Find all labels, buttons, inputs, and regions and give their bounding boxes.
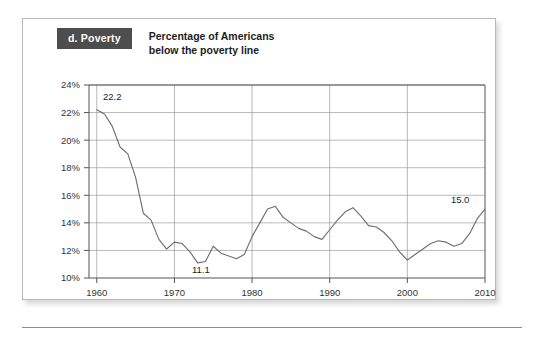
x-axis-tick-label: 2010 bbox=[474, 287, 495, 298]
x-axis-tick-labels: 196019701980199020002010 bbox=[86, 287, 495, 298]
y-axis-tick-labels: 10%12%14%16%18%20%22%24% bbox=[61, 79, 81, 283]
y-axis-tick-label: 10% bbox=[61, 272, 81, 283]
data-series-group bbox=[97, 110, 485, 263]
y-axis-tick-label: 16% bbox=[61, 190, 81, 201]
panel-badge: d. Poverty bbox=[57, 28, 132, 49]
bottom-divider-rule bbox=[22, 327, 522, 328]
y-axis-tick-label: 12% bbox=[61, 245, 81, 256]
chart-plot-area: 10%12%14%16%18%20%22%24% 196019701980199… bbox=[23, 73, 497, 301]
data-point-label: 11.1 bbox=[192, 264, 210, 275]
figure-card: d. Poverty Percentage of Americans below… bbox=[22, 18, 496, 300]
y-axis-tick-label: 18% bbox=[61, 162, 81, 173]
figure-header: d. Poverty Percentage of Americans below… bbox=[57, 28, 274, 58]
gridlines-group bbox=[89, 85, 485, 278]
x-axis-tick-label: 1980 bbox=[241, 287, 262, 298]
x-axis-tick-label: 1960 bbox=[86, 287, 107, 298]
poverty-rate-line bbox=[97, 110, 485, 263]
y-axis-tick-label: 22% bbox=[61, 107, 81, 118]
poverty-line-chart: 10%12%14%16%18%20%22%24% 196019701980199… bbox=[23, 73, 497, 301]
data-point-labels: 22.211.115.0 bbox=[103, 91, 469, 275]
x-axis-tick-label: 1990 bbox=[319, 287, 340, 298]
x-axis-tick-label: 1970 bbox=[164, 287, 185, 298]
figure-title: Percentage of Americans below the povert… bbox=[149, 28, 275, 58]
data-point-label: 15.0 bbox=[451, 194, 470, 205]
y-axis-tick-label: 14% bbox=[61, 217, 81, 228]
tick-marks-group bbox=[84, 85, 485, 283]
x-axis-tick-label: 2000 bbox=[397, 287, 418, 298]
data-point-label: 22.2 bbox=[103, 91, 122, 102]
y-axis-tick-label: 20% bbox=[61, 135, 81, 146]
y-axis-tick-label: 24% bbox=[61, 79, 81, 90]
axis-lines-group bbox=[89, 85, 485, 278]
